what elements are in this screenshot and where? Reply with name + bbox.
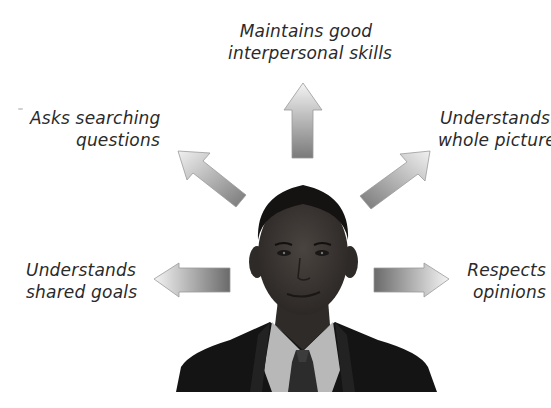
arrow-up-left-icon <box>178 151 246 207</box>
label-whole-picture: Understands whole picture <box>438 107 550 151</box>
label-line-1: Asks searching <box>30 107 160 129</box>
arrow-left-icon <box>154 263 230 297</box>
label-line-2: shared goals <box>26 281 156 303</box>
label-line-1: Maintains good <box>228 20 384 42</box>
label-line-1: Understands <box>26 259 156 281</box>
diagram-canvas: Maintains good interpersonal skills Asks… <box>0 0 551 408</box>
stray-mark <box>18 108 23 110</box>
label-line-2: opinions <box>466 281 546 303</box>
label-line-1: Respects <box>466 259 546 281</box>
label-line-2: whole picture <box>438 129 550 151</box>
label-respects-opinions: Respects opinions <box>466 259 546 303</box>
arrow-up-icon <box>284 83 322 158</box>
label-interpersonal-skills: Maintains good interpersonal skills <box>228 20 384 64</box>
label-line-1: Understands <box>438 107 550 129</box>
arrow-up-right-icon <box>360 151 430 209</box>
label-line-2: interpersonal skills <box>228 42 384 64</box>
label-searching-questions: Asks searching questions <box>30 107 160 151</box>
label-shared-goals: Understands shared goals <box>26 259 156 303</box>
label-line-2: questions <box>30 129 160 151</box>
arrow-right-icon <box>374 263 449 297</box>
